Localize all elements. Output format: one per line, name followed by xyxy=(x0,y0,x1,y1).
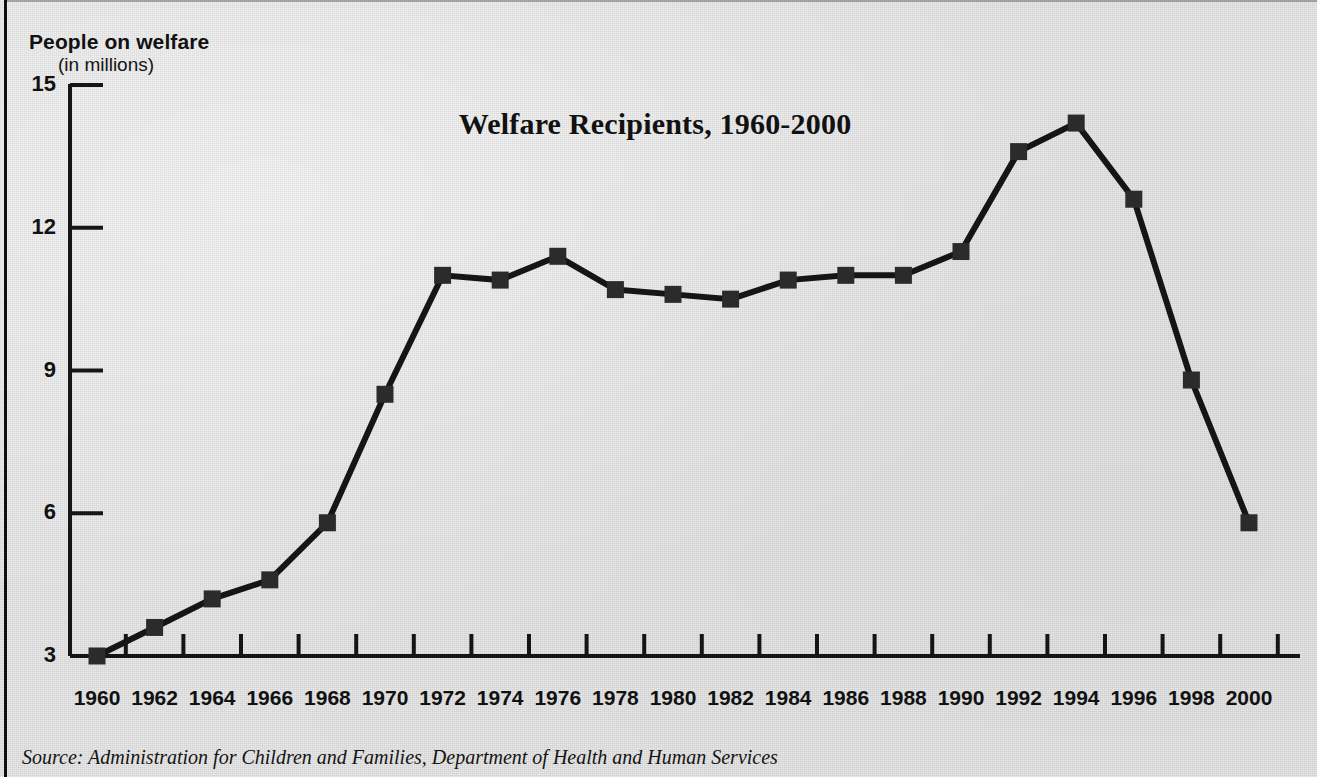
x-tick-label: 1964 xyxy=(181,686,243,710)
data-point-marker xyxy=(953,243,970,260)
x-tick-label: 1976 xyxy=(527,686,589,710)
data-point-marker xyxy=(1010,143,1027,160)
x-tick-label: 1974 xyxy=(469,686,531,710)
y-tick-label: 15 xyxy=(12,71,56,97)
x-tick-label: 1972 xyxy=(412,686,474,710)
data-point-marker xyxy=(261,571,278,588)
data-point-marker xyxy=(665,286,682,303)
data-point-marker xyxy=(146,619,163,636)
data-point-marker xyxy=(607,281,624,298)
data-point-marker xyxy=(1183,372,1200,389)
x-tick-label: 1962 xyxy=(124,686,186,710)
data-point-marker xyxy=(492,272,509,289)
data-point-marker xyxy=(377,386,394,403)
x-tick-label: 1986 xyxy=(815,686,877,710)
data-point-marker xyxy=(780,272,797,289)
data-point-marker xyxy=(722,291,739,308)
x-tick-label: 1996 xyxy=(1103,686,1165,710)
data-point-marker xyxy=(1125,191,1142,208)
x-tick-label: 1988 xyxy=(872,686,934,710)
x-tick-label: 2000 xyxy=(1218,686,1280,710)
data-point-marker xyxy=(319,514,336,531)
y-tick-label: 9 xyxy=(12,357,56,383)
data-point-marker xyxy=(895,267,912,284)
x-tick-label: 1968 xyxy=(296,686,358,710)
data-point-marker xyxy=(434,267,451,284)
x-tick-label: 1998 xyxy=(1160,686,1222,710)
y-tick-label: 3 xyxy=(12,642,56,668)
data-point-marker xyxy=(837,267,854,284)
y-tick-label: 6 xyxy=(12,499,56,525)
chart-figure: People on welfare (in millions) Welfare … xyxy=(0,0,1317,777)
data-point-marker xyxy=(549,248,566,265)
plot-area xyxy=(0,0,1317,777)
x-tick-label: 1970 xyxy=(354,686,416,710)
x-tick-label: 1990 xyxy=(930,686,992,710)
data-point-marker xyxy=(204,590,221,607)
x-tick-label: 1960 xyxy=(66,686,128,710)
x-tick-label: 1984 xyxy=(757,686,819,710)
x-tick-label: 1980 xyxy=(642,686,704,710)
data-point-marker xyxy=(1068,115,1085,132)
y-tick-label: 12 xyxy=(12,214,56,240)
x-tick-label: 1966 xyxy=(239,686,301,710)
x-tick-label: 1978 xyxy=(584,686,646,710)
x-tick-label: 1992 xyxy=(988,686,1050,710)
x-tick-label: 1994 xyxy=(1045,686,1107,710)
data-point-marker xyxy=(1241,514,1258,531)
data-point-marker xyxy=(89,648,106,665)
x-tick-label: 1982 xyxy=(700,686,762,710)
source-note: Source: Administration for Children and … xyxy=(22,746,778,769)
